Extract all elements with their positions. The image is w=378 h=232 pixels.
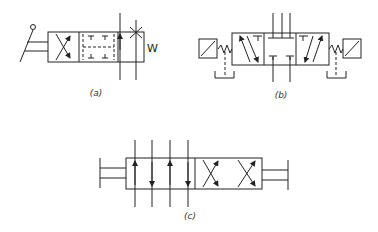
valve-b — [199, 13, 361, 82]
valve-c — [100, 140, 288, 207]
spring-mark-w: W — [147, 42, 158, 55]
valve-a — [20, 13, 144, 80]
panel-label-a: (a) — [90, 88, 103, 98]
valve-diagram: W — [0, 0, 378, 232]
panel-label-b: (b) — [275, 90, 288, 100]
panel-label-c: (c) — [184, 211, 196, 221]
